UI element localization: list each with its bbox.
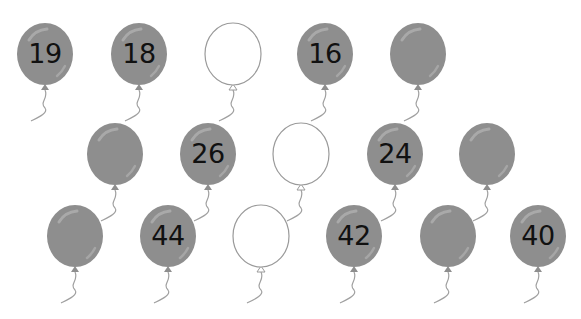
balloon-number: 40 [508,216,568,256]
balloon-number [45,216,105,256]
balloon-number [388,34,448,74]
balloon-number: 42 [324,216,384,256]
balloon-number [418,216,478,256]
balloon-string [247,272,262,303]
cropped-instruction-text [0,0,581,5]
blank-balloon [388,22,448,122]
numbered-balloon: 18 [109,22,169,122]
numbered-balloon: 19 [15,22,75,122]
blank-balloon [45,204,105,304]
balloon-string [404,90,419,121]
balloon-number [457,134,517,174]
blank-balloon [418,204,478,304]
balloon-string [311,90,326,121]
empty-balloon-answer-slot[interactable] [231,204,291,304]
balloon-number: 16 [295,34,355,74]
balloon-string [524,272,539,303]
balloon-string [219,90,234,121]
empty-balloon-answer-slot[interactable] [203,22,263,122]
balloon-number: 19 [15,34,75,74]
balloon-number [271,134,331,174]
numbered-balloon: 40 [508,204,568,304]
balloon-number: 24 [365,134,425,174]
balloon-number: 44 [138,216,198,256]
balloon-string [31,90,46,121]
balloon-string [340,272,355,303]
balloon-string [154,272,169,303]
balloon-string [434,272,449,303]
balloon-string [61,272,76,303]
balloon-number [231,216,291,256]
balloon-string [125,90,140,121]
balloon-number: 26 [178,134,238,174]
balloon-number: 18 [109,34,169,74]
numbered-balloon: 16 [295,22,355,122]
numbered-balloon: 42 [324,204,384,304]
balloon-number [203,34,263,74]
numbered-balloon: 44 [138,204,198,304]
balloon-number [85,134,145,174]
